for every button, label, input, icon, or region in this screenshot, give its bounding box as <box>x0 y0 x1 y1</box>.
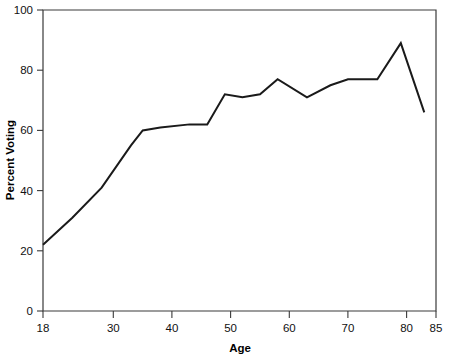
x-tick-label-30: 30 <box>107 322 120 334</box>
x-tick-label-70: 70 <box>342 322 355 334</box>
chart-container: 0 20 40 60 80 100 18 30 40 50 60 70 80 <box>0 0 449 357</box>
y-tick-label-20: 20 <box>20 245 33 257</box>
x-tick-label-18: 18 <box>37 322 50 334</box>
x-axis-ticks <box>43 311 436 318</box>
y-tick-label-60: 60 <box>20 124 33 136</box>
x-tick-label-60: 60 <box>283 322 296 334</box>
plot-frame <box>43 10 436 311</box>
y-tick-label-0: 0 <box>27 305 33 317</box>
y-axis-tick-labels: 0 20 40 60 80 100 <box>14 4 33 317</box>
y-axis-ticks <box>37 10 43 311</box>
percent-voting-by-age-chart: 0 20 40 60 80 100 18 30 40 50 60 70 80 <box>0 0 449 357</box>
x-axis-title: Age <box>229 342 251 354</box>
y-tick-label-40: 40 <box>20 185 33 197</box>
x-tick-label-40: 40 <box>166 322 179 334</box>
x-tick-label-50: 50 <box>224 322 237 334</box>
data-line-percent-voting <box>43 43 424 245</box>
y-axis-title: Percent Voting <box>4 120 16 200</box>
y-tick-label-100: 100 <box>14 4 33 16</box>
y-tick-label-80: 80 <box>20 64 33 76</box>
axes-frame <box>43 10 436 311</box>
x-tick-label-80: 80 <box>400 322 413 334</box>
x-axis-tick-labels: 18 30 40 50 60 70 80 85 <box>37 322 443 334</box>
x-tick-label-85: 85 <box>430 322 443 334</box>
